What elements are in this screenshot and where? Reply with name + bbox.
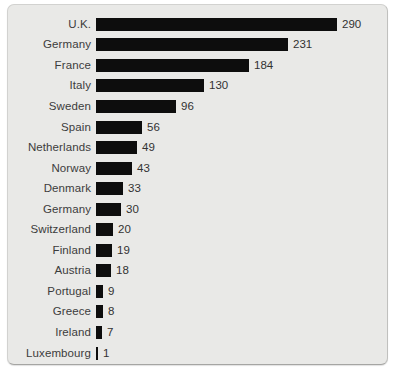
- bar-chart: U.K.290Germany231France184Italy130Sweden…: [8, 5, 387, 363]
- chart-row: Denmark33: [8, 178, 387, 199]
- bar: [96, 79, 204, 92]
- page-background: U.K.290Germany231France184Italy130Sweden…: [0, 0, 395, 374]
- category-label: Sweden: [8, 100, 91, 113]
- bar: [96, 162, 132, 175]
- bar: [96, 100, 176, 113]
- category-label: U.K.: [8, 18, 91, 31]
- bar: [96, 141, 137, 154]
- chart-row: Norway43: [8, 158, 387, 179]
- value-label: 96: [181, 100, 194, 113]
- value-label: 18: [116, 264, 129, 277]
- category-label: Norway: [8, 162, 91, 175]
- category-label: Luxembourg: [8, 347, 91, 360]
- category-label: Ireland: [8, 326, 91, 339]
- value-label: 7: [107, 326, 113, 339]
- value-label: 20: [118, 223, 131, 236]
- chart-row: Switzerland20: [8, 219, 387, 240]
- chart-row: Portugal9: [8, 281, 387, 302]
- category-label: France: [8, 59, 91, 72]
- bar: [96, 18, 337, 31]
- bar: [96, 59, 249, 72]
- bar: [96, 38, 288, 51]
- value-label: 30: [126, 203, 139, 216]
- category-label: Germany: [8, 203, 91, 216]
- bar: [96, 121, 142, 134]
- chart-row: Netherlands49: [8, 137, 387, 158]
- value-label: 43: [137, 162, 150, 175]
- bar: [96, 305, 103, 318]
- value-label: 56: [147, 121, 160, 134]
- chart-row: Finland19: [8, 240, 387, 261]
- value-label: 130: [209, 79, 228, 92]
- category-label: Greece: [8, 305, 91, 318]
- category-label: Italy: [8, 79, 91, 92]
- category-label: Finland: [8, 244, 91, 257]
- category-label: Spain: [8, 121, 91, 134]
- category-label: Austria: [8, 264, 91, 277]
- value-label: 290: [342, 18, 361, 31]
- value-label: 1: [103, 347, 109, 360]
- value-label: 9: [108, 285, 114, 298]
- value-label: 8: [108, 305, 114, 318]
- bar: [96, 244, 112, 257]
- chart-row: Luxembourg1: [8, 343, 387, 364]
- chart-panel: U.K.290Germany231France184Italy130Sweden…: [7, 4, 388, 365]
- chart-row: Spain56: [8, 117, 387, 138]
- category-label: Netherlands: [8, 141, 91, 154]
- chart-row: Austria18: [8, 261, 387, 282]
- value-label: 33: [128, 182, 141, 195]
- chart-row: Germany231: [8, 35, 387, 56]
- category-label: Portugal: [8, 285, 91, 298]
- bar: [96, 264, 111, 277]
- bar: [96, 223, 113, 236]
- chart-row: France184: [8, 55, 387, 76]
- bar: [96, 182, 123, 195]
- value-label: 49: [142, 141, 155, 154]
- chart-row: Germany30: [8, 199, 387, 220]
- chart-row: Sweden96: [8, 96, 387, 117]
- chart-row: Ireland7: [8, 322, 387, 343]
- chart-row: Italy130: [8, 76, 387, 97]
- category-label: Germany: [8, 38, 91, 51]
- bar: [96, 203, 121, 216]
- category-label: Switzerland: [8, 223, 91, 236]
- value-label: 184: [254, 59, 273, 72]
- bar: [96, 326, 102, 339]
- bar: [96, 347, 98, 360]
- category-label: Denmark: [8, 182, 91, 195]
- chart-row: Greece8: [8, 302, 387, 323]
- chart-row: U.K.290: [8, 14, 387, 35]
- value-label: 19: [117, 244, 130, 257]
- value-label: 231: [293, 38, 312, 51]
- bar: [96, 285, 103, 298]
